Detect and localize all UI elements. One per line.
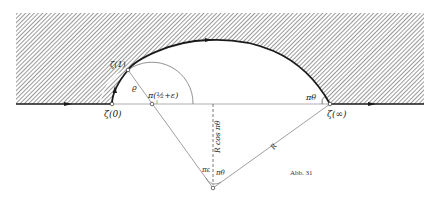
diagram-canvas: ζ(0) ζ(1) ζ(∞) ϱ π(½+ε) πθ R cos πθ R πε… [0, 0, 437, 197]
point-center-small [150, 102, 154, 106]
label-R-cos: R cos πθ [213, 120, 222, 154]
label-zetaInf: ζ(∞) [327, 109, 347, 119]
angle-arc-bottom [206, 178, 221, 184]
angle-arc-inf [322, 96, 325, 104]
label-angle-theta-top: πθ [305, 93, 316, 102]
label-zeta0: ζ(0) [104, 109, 122, 119]
figure-caption: Abb. 31 [290, 169, 313, 177]
label-rho: ϱ [132, 83, 137, 92]
rho-line [128, 70, 213, 188]
hatched-region [16, 13, 424, 104]
label-angle-small: π(½+ε) [147, 91, 178, 100]
point-zetaInf [328, 102, 332, 106]
label-zeta1: ζ(1) [110, 60, 126, 69]
point-zeta1 [126, 68, 130, 72]
label-R: R [269, 142, 280, 152]
point-center-big [211, 186, 215, 190]
label-angle-eps: πε [201, 166, 211, 174]
point-zeta0 [110, 102, 114, 106]
label-angle-theta-bottom: πθ [215, 169, 226, 177]
